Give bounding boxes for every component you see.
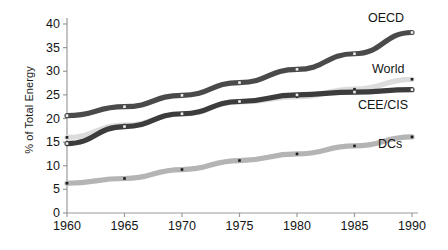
line-chart: % of Total Energy 0510152025303540 19601… bbox=[0, 0, 448, 250]
series-label-cee-cis: CEE/CIS bbox=[358, 99, 408, 112]
series-label-world: World bbox=[372, 63, 404, 76]
series-label-oecd: OECD bbox=[368, 12, 404, 25]
series-labels: OECDWorldCEE/CISDCs bbox=[0, 0, 448, 250]
series-label-dcs: DCs bbox=[378, 138, 402, 151]
